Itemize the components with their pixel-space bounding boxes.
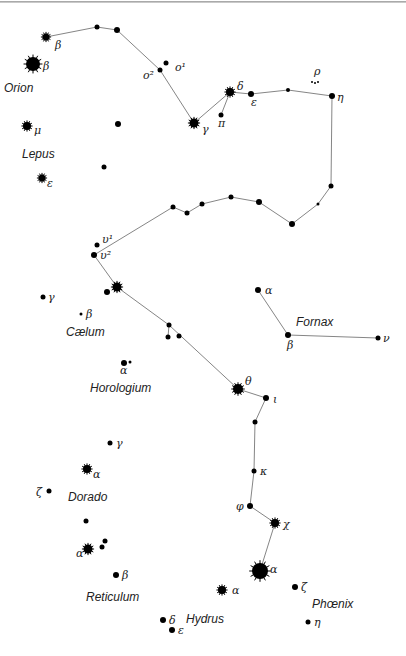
star-label: α bbox=[270, 563, 278, 576]
star-phe-zeta bbox=[292, 584, 298, 590]
constellation-name-reticulum: Reticulum bbox=[86, 590, 139, 604]
constellation-line bbox=[254, 422, 255, 471]
star-for-beta bbox=[285, 332, 291, 338]
star-for-nu bbox=[376, 336, 381, 341]
star-eri-c5 bbox=[229, 195, 234, 200]
star-eri-d2 bbox=[167, 323, 172, 328]
star-eri-iota bbox=[263, 395, 269, 401]
star-eri-eta bbox=[329, 93, 335, 99]
star-label: υ² bbox=[100, 249, 111, 262]
star-label: θ bbox=[245, 375, 252, 388]
constellation-line bbox=[46, 27, 97, 37]
star-cae-beta bbox=[80, 313, 83, 316]
constellation-line bbox=[259, 202, 292, 224]
star-hor-alpha-b bbox=[129, 361, 132, 364]
star-label: o² bbox=[143, 69, 154, 82]
star-label: β bbox=[121, 569, 128, 582]
star-lep-epsilon bbox=[37, 173, 47, 183]
constellation-line bbox=[251, 90, 288, 94]
constellation-line bbox=[255, 398, 266, 422]
constellation-line bbox=[250, 471, 254, 506]
star-eri-a1 bbox=[95, 25, 100, 30]
constellation-name-phœnix: Phœnix bbox=[312, 597, 354, 611]
star-label: β bbox=[85, 308, 92, 321]
star-label: ρ bbox=[313, 65, 321, 78]
star-eri-c1 bbox=[329, 184, 334, 189]
star-label: υ¹ bbox=[102, 233, 113, 246]
star-for-alpha bbox=[255, 287, 261, 293]
star-label: ζ bbox=[301, 581, 308, 594]
constellation-line bbox=[117, 30, 160, 70]
star-lep-a bbox=[115, 121, 121, 127]
star-phe-eta bbox=[306, 620, 311, 625]
star-label: ε bbox=[47, 177, 53, 190]
star-eri-b1 bbox=[286, 88, 290, 92]
star-ret-alpha bbox=[82, 543, 94, 555]
constellation-line bbox=[288, 90, 332, 96]
constellation-name-cælum: Cælum bbox=[66, 325, 105, 339]
star-label: α bbox=[76, 547, 84, 560]
star-eri-o1 bbox=[164, 61, 169, 66]
star-label: α bbox=[232, 584, 240, 597]
star-label: χ bbox=[282, 518, 291, 531]
star-label: γ bbox=[48, 291, 55, 304]
star-label: φ bbox=[236, 500, 244, 513]
star-eri-e1 bbox=[253, 420, 258, 425]
star-label: α bbox=[120, 364, 128, 377]
star-eri-c3 bbox=[289, 221, 295, 227]
constellation-line bbox=[288, 335, 378, 338]
constellation-name-lepus: Lepus bbox=[22, 147, 55, 161]
star-eri-d1 bbox=[111, 281, 123, 293]
star-label: α bbox=[93, 468, 101, 481]
constellation-line bbox=[117, 287, 169, 325]
star-label: β bbox=[286, 339, 293, 352]
star-hyi-alpha bbox=[216, 584, 227, 595]
star-label: β bbox=[42, 60, 49, 73]
star-label: o¹ bbox=[175, 61, 186, 74]
star-label: γ bbox=[116, 437, 123, 450]
star-eri-chi bbox=[269, 517, 280, 528]
constellation-line bbox=[202, 197, 231, 204]
star-label: α bbox=[265, 284, 273, 297]
constellation-line bbox=[318, 186, 331, 204]
constellation-name-dorado: Dorado bbox=[68, 490, 108, 504]
star-dor-gamma bbox=[108, 441, 113, 446]
constellation-name-hydrus: Hydrus bbox=[186, 612, 224, 626]
star-label: η bbox=[314, 616, 321, 629]
constellation-name-orion: Orion bbox=[4, 81, 34, 95]
star-eri-d3 bbox=[166, 335, 171, 340]
constellation-name-horologium: Horologium bbox=[90, 381, 151, 395]
star-eri-c8 bbox=[171, 205, 176, 210]
star-dor-alpha bbox=[81, 463, 92, 474]
star-ret-a bbox=[84, 519, 89, 524]
constellation-line bbox=[292, 204, 318, 224]
star-label: ν bbox=[383, 332, 390, 345]
constellation-line bbox=[231, 197, 259, 202]
star-hyi-epsilon bbox=[169, 627, 175, 633]
star-chart: ββo²o¹γπδερηυ¹υ²θικφχαζηαδεαβνμεγβαγαζαβ… bbox=[0, 0, 406, 656]
star-cae-gamma bbox=[41, 295, 46, 300]
constellation-line bbox=[258, 290, 288, 335]
star-hyi-delta bbox=[160, 617, 166, 623]
star-eri-c2 bbox=[317, 203, 320, 206]
star-eri-d4 bbox=[177, 334, 182, 339]
star-label: ε bbox=[178, 624, 184, 637]
star-label: κ bbox=[259, 465, 268, 478]
constellation-line bbox=[187, 204, 202, 213]
star-eri-d1b bbox=[104, 289, 110, 295]
star-eri-kappa bbox=[252, 469, 257, 474]
star-label: ε bbox=[251, 96, 257, 109]
star-label: δ bbox=[169, 614, 176, 627]
star-label: β bbox=[54, 39, 61, 52]
star-eri-ups1 bbox=[95, 243, 100, 248]
star-label: μ bbox=[34, 124, 41, 137]
star-eri-phi bbox=[247, 503, 253, 509]
star-lep-mu bbox=[21, 120, 32, 131]
constellation-name-fornax: Fornax bbox=[296, 315, 334, 329]
star-eri-ups2 bbox=[91, 252, 97, 258]
star-label: γ bbox=[202, 123, 209, 136]
star-label: ζ bbox=[36, 486, 43, 499]
star-eri-o2 bbox=[158, 68, 163, 73]
constellation-line bbox=[331, 96, 332, 186]
star-label: δ bbox=[237, 80, 244, 93]
